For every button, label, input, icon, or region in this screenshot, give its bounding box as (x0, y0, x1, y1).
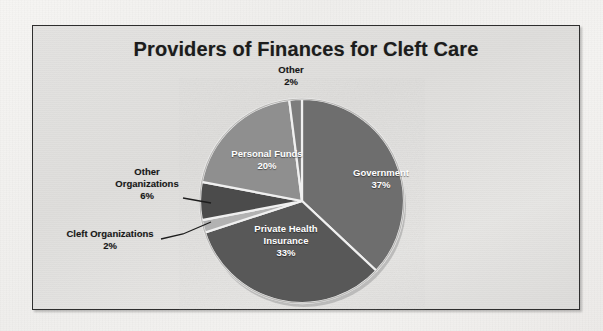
slice-label-other-organizations: Other Organizations 6% (97, 166, 197, 202)
slice-label-other-name: Other (246, 64, 336, 76)
chart-frame: Providers of Finances for Cleft Care (32, 25, 580, 310)
slice-label-cleft-organizations: Cleft Organizations 2% (51, 228, 169, 252)
pie-slices-group (200, 99, 404, 303)
pie-slice-personal-funds[interactable] (202, 100, 302, 201)
slice-label-cleft-organizations-name: Cleft Organizations (51, 228, 169, 240)
slice-label-other-organizations-name-2: Organizations (97, 178, 197, 190)
slice-label-other-organizations-name-1: Other (97, 166, 197, 178)
slice-label-other-organizations-value: 6% (97, 190, 197, 202)
slice-label-cleft-organizations-value: 2% (51, 240, 169, 252)
slice-label-other-value: 2% (246, 76, 336, 88)
slice-label-other: Other 2% (246, 64, 336, 88)
